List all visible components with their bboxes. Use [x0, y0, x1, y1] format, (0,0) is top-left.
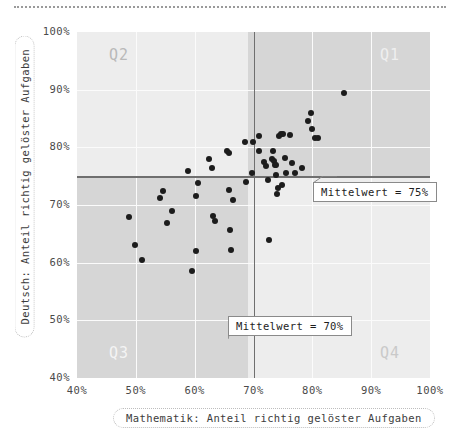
- annotation-mean-mathematik: Mittelwert = 70%: [228, 316, 352, 336]
- y-axis-title-wrapper: Deutsch: Anteil richtig gelöster Aufgabe…: [14, 76, 35, 338]
- x-tick-label: 40%: [47, 384, 107, 396]
- y-axis-tick-labels: 40%50%60%70%80%90%100%: [0, 0, 459, 445]
- y-tick-label: 100%: [24, 25, 70, 37]
- x-tick-label: 70%: [224, 384, 284, 396]
- x-tick-label: 80%: [282, 384, 342, 396]
- y-tick-label: 40%: [24, 371, 70, 383]
- x-tick-label: 100%: [400, 384, 459, 396]
- scatter-chart-canvas: Q2 Q1 Q3 Q4 40%50%60%70%80%90%100% 40%50…: [0, 0, 459, 445]
- x-tick-label: 50%: [106, 384, 166, 396]
- annotation-mean-deutsch: Mittelwert = 75%: [313, 182, 437, 202]
- x-axis-title: Mathematik: Anteil richtig gelöster Aufg…: [113, 408, 435, 428]
- y-axis-title: Deutsch: Anteil richtig gelöster Aufgabe…: [15, 36, 35, 338]
- x-tick-label: 60%: [165, 384, 225, 396]
- x-tick-label: 90%: [341, 384, 401, 396]
